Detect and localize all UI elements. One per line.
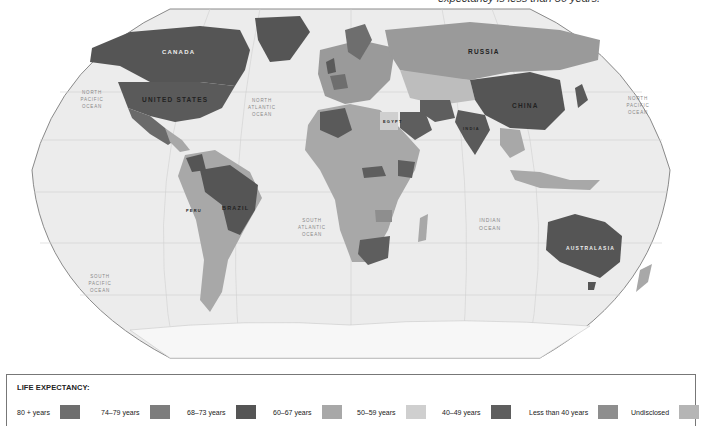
legend-item-undisclosed: Undisclosed — [631, 403, 699, 421]
legend-items: 80 + years 74–79 years 68–73 years 60–67… — [17, 403, 693, 421]
legend: LIFE EXPECTANCY: 80 + years 74–79 years … — [6, 374, 696, 426]
svg-text:SOUTH: SOUTH — [90, 274, 110, 279]
legend-label: 60–67 years — [273, 409, 312, 416]
svg-text:OCEAN: OCEAN — [479, 225, 501, 231]
label-australasia: AUSTRALASIA — [566, 245, 615, 251]
legend-item-60-67: 60–67 years — [273, 403, 342, 421]
svg-text:PACIFIC: PACIFIC — [88, 281, 111, 286]
svg-text:SOUTH: SOUTH — [302, 218, 322, 223]
legend-item-less-than-40: Less than 40 years — [529, 403, 618, 421]
legend-title: LIFE EXPECTANCY: — [17, 383, 90, 392]
legend-label: 40–49 years — [442, 409, 481, 416]
legend-label: 50–59 years — [357, 409, 396, 416]
central-african-republic — [362, 166, 386, 178]
legend-item-68-73: 68–73 years — [187, 403, 256, 421]
ocean-label-south-atlantic: SOUTH ATLANTIC OCEAN — [298, 218, 326, 237]
ocean-label-south-pacific: SOUTH PACIFIC OCEAN — [88, 274, 111, 293]
svg-text:ATLANTIC: ATLANTIC — [298, 225, 326, 230]
svg-text:ATLANTIC: ATLANTIC — [248, 105, 276, 110]
legend-swatch — [150, 405, 170, 419]
svg-text:PACIFIC: PACIFIC — [626, 103, 649, 108]
label-united-states: UNITED STATES — [142, 96, 208, 103]
antarctica — [130, 321, 590, 358]
label-canada: CANADA — [162, 49, 195, 55]
legend-label: 80 + years — [17, 409, 50, 416]
label-brazil: BRAZIL — [222, 205, 249, 211]
zambia — [375, 210, 392, 222]
legend-item-74-79: 74–79 years — [101, 403, 170, 421]
ethiopia — [398, 160, 415, 178]
svg-text:OCEAN: OCEAN — [302, 232, 322, 237]
label-china: CHINA — [512, 102, 539, 109]
ocean-label-north-atlantic: NORTH ATLANTIC OCEAN — [248, 98, 276, 117]
world-map: CANADA UNITED STATES RUSSIA CHINA BRAZIL… — [0, 0, 702, 372]
label-egypt: EGYPT — [383, 119, 403, 124]
label-india: INDIA — [463, 126, 480, 131]
legend-swatch — [60, 405, 80, 419]
legend-swatch — [406, 405, 426, 419]
svg-text:OCEAN: OCEAN — [82, 104, 102, 109]
legend-label: Undisclosed — [631, 409, 669, 416]
label-peru: PERU — [186, 208, 202, 213]
svg-text:OCEAN: OCEAN — [628, 110, 648, 115]
world-map-svg: CANADA UNITED STATES RUSSIA CHINA BRAZIL… — [0, 0, 702, 372]
legend-swatch — [491, 405, 511, 419]
legend-swatch — [598, 405, 618, 419]
svg-text:OCEAN: OCEAN — [252, 112, 272, 117]
legend-label: Less than 40 years — [529, 409, 588, 416]
legend-swatch — [679, 405, 699, 419]
legend-swatch — [322, 405, 342, 419]
legend-item-80-plus: 80 + years — [17, 403, 80, 421]
svg-text:INDIAN: INDIAN — [479, 217, 501, 223]
svg-text:PACIFIC: PACIFIC — [80, 97, 103, 102]
legend-label: 74–79 years — [101, 409, 140, 416]
svg-text:NORTH: NORTH — [82, 90, 102, 95]
ocean-label-north-pacific-west: NORTH PACIFIC OCEAN — [80, 90, 103, 109]
legend-label: 68–73 years — [187, 409, 226, 416]
label-russia: RUSSIA — [468, 48, 500, 55]
legend-item-50-59: 50–59 years — [357, 403, 426, 421]
legend-item-40-49: 40–49 years — [442, 403, 511, 421]
svg-text:NORTH: NORTH — [252, 98, 272, 103]
svg-text:NORTH: NORTH — [628, 96, 648, 101]
legend-swatch — [236, 405, 256, 419]
ocean-label-north-pacific-east: NORTH PACIFIC OCEAN — [626, 96, 649, 115]
svg-text:OCEAN: OCEAN — [90, 288, 110, 293]
